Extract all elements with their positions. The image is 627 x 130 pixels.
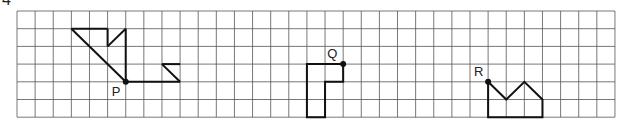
grid-diagram: PQR — [0, 0, 627, 130]
svg-text:Q: Q — [327, 46, 337, 61]
svg-text:P: P — [112, 84, 121, 99]
svg-text:R: R — [474, 64, 483, 79]
